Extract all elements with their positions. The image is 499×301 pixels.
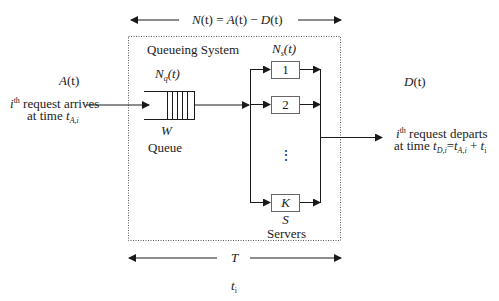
a-symbol: A [227, 12, 235, 27]
service-time-label: S [271, 213, 300, 227]
a-arg: (t) [67, 73, 79, 88]
arrivals-function-label: A(t) [59, 74, 79, 88]
d-symbol: D [404, 74, 413, 89]
population-equation-label: N(t) = A(t) − D(t) [192, 13, 283, 27]
eq-part: (t) = [201, 12, 227, 27]
waiting-time-label: W [161, 124, 172, 138]
n-symbol: N [155, 66, 164, 81]
arrival-time-prefix: at time [27, 108, 66, 123]
server-2-label: 2 [271, 98, 300, 112]
equals-sign: = [447, 138, 454, 153]
t-arg: (t) [284, 41, 296, 56]
sojourn-time-label: ti [231, 279, 237, 298]
i-subscript: i [484, 146, 486, 155]
arrival-subscript: A,i [70, 116, 79, 125]
servers-label: Servers [267, 227, 306, 241]
queue-label: Queue [148, 141, 182, 155]
departure-time-prefix: at time [394, 138, 433, 153]
departure-time: at time tD,i=tA,i + ti [394, 139, 486, 158]
queue-length-label: Nq(t) [155, 67, 180, 86]
n-symbol: N [192, 12, 201, 27]
a-symbol: A [59, 73, 67, 88]
d-arg: (t) [413, 74, 425, 89]
plus-sign: + [467, 138, 481, 153]
server-1-label: 1 [271, 63, 300, 77]
queue-buffer-icon [144, 91, 195, 120]
t-arg: (t) [168, 66, 180, 81]
servers-busy-label: Ns(t) [272, 42, 296, 61]
departure-subscript: D,i [437, 146, 447, 155]
d-symbol: D [261, 12, 270, 27]
servers-ellipsis: ⋮ [271, 149, 300, 163]
arrival-time: at time tA,i [27, 109, 79, 128]
queueing-system-title: Queueing System [147, 43, 239, 57]
arrival-subscript: A,i [458, 146, 467, 155]
departures-function-label: D(t) [404, 75, 426, 89]
server-k-label: K [271, 196, 300, 210]
response-time-label: T [231, 251, 238, 265]
i-subscript: i [235, 286, 237, 295]
eq-part: (t) [270, 12, 282, 27]
n-symbol: N [272, 41, 281, 56]
eq-part: (t) − [235, 12, 261, 27]
